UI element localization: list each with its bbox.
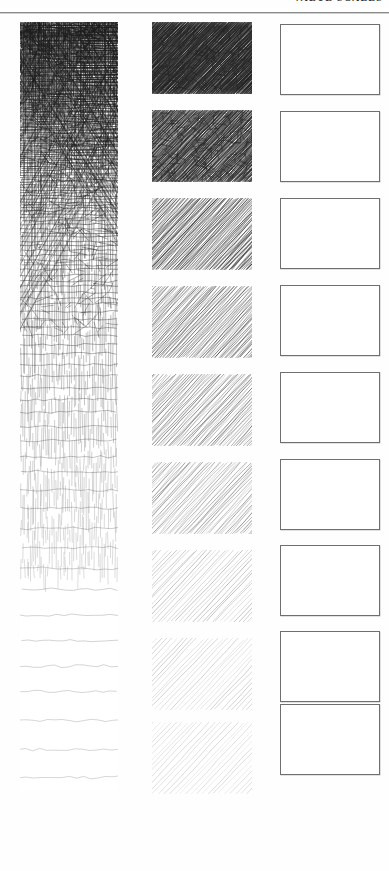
hatched-swatch-column: [152, 22, 252, 782]
hatched-swatch-artwork-4: [152, 286, 252, 358]
crosshatch-gradient-artwork: [20, 22, 118, 790]
crosshatch-gradient-strip: [20, 22, 118, 790]
blank-practice-box-6[interactable]: [280, 459, 380, 530]
hatched-swatch-5: [152, 374, 252, 446]
blank-practice-box-8[interactable]: [280, 631, 380, 702]
blank-practice-box-9[interactable]: [280, 704, 380, 775]
continuous-gradient-strip-column: [20, 22, 118, 790]
hatched-swatch-artwork-1: [152, 22, 252, 94]
hatched-swatch-artwork-2: [152, 110, 252, 182]
hatched-swatch-3: [152, 198, 252, 270]
page-header: VALUE SCALES: [0, 0, 389, 14]
hatched-swatch-2: [152, 110, 252, 182]
hatched-swatch-9: [152, 722, 252, 794]
blank-practice-box-5[interactable]: [280, 372, 380, 443]
hatched-swatch-artwork-9: [152, 722, 252, 794]
blank-practice-box-2[interactable]: [280, 111, 380, 182]
hatched-swatch-1: [152, 22, 252, 94]
running-head: VALUE SCALES: [293, 0, 383, 3]
blank-practice-box-4[interactable]: [280, 285, 380, 356]
hatched-swatch-artwork-7: [152, 550, 252, 622]
header-rule-shadow: [0, 13, 389, 14]
scanned-page: VALUE SCALES: [0, 0, 389, 871]
hatched-swatch-artwork-6: [152, 462, 252, 534]
blank-practice-box-column: [280, 24, 380, 775]
hatched-swatch-8: [152, 638, 252, 710]
blank-practice-box-1[interactable]: [280, 24, 380, 95]
hatched-swatch-artwork-3: [152, 198, 252, 270]
hatched-swatch-4: [152, 286, 252, 358]
hatched-swatch-artwork-8: [152, 638, 252, 710]
hatched-swatch-7: [152, 550, 252, 622]
hatched-swatch-artwork-5: [152, 374, 252, 446]
hatched-swatch-6: [152, 462, 252, 534]
blank-practice-box-3[interactable]: [280, 198, 380, 269]
blank-practice-box-7[interactable]: [280, 545, 380, 616]
